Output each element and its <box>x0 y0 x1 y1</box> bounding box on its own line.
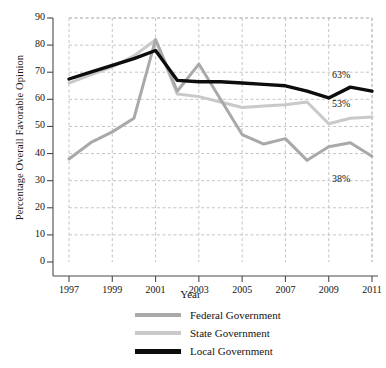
legend-item[interactable]: State Government <box>0 324 381 342</box>
legend-swatch <box>135 349 181 354</box>
legend-label: Federal Government <box>190 309 281 321</box>
chart-legend: Federal GovernmentState GovernmentLocal … <box>0 306 381 360</box>
legend-label: Local Government <box>190 345 273 357</box>
y-axis-tick-label: 60 <box>19 92 45 103</box>
legend-label: State Government <box>190 327 270 339</box>
y-axis-tick-label: 80 <box>19 38 45 49</box>
y-axis-tick-label: 30 <box>19 174 45 185</box>
y-axis-tick-label: 40 <box>19 147 45 158</box>
legend-item[interactable]: Local Government <box>0 342 381 360</box>
y-axis-tick-label: 90 <box>19 11 45 22</box>
series-value-label: 53% <box>332 98 350 109</box>
series-line-federal-government <box>69 40 372 161</box>
y-axis-tick-label: 50 <box>19 119 45 130</box>
x-axis-title: Year <box>0 288 381 300</box>
y-axis-tick-label: 70 <box>19 65 45 76</box>
series-value-label: 63% <box>332 69 350 80</box>
series-line-local-government <box>69 51 372 98</box>
legend-swatch <box>135 313 181 317</box>
series-value-label: 38% <box>332 173 350 184</box>
legend-item[interactable]: Federal Government <box>0 306 381 324</box>
y-axis-tick-label: 10 <box>19 228 45 239</box>
y-axis-tick-label: 0 <box>19 255 45 266</box>
y-axis-tick-label: 20 <box>19 201 45 212</box>
legend-swatch <box>135 331 181 335</box>
